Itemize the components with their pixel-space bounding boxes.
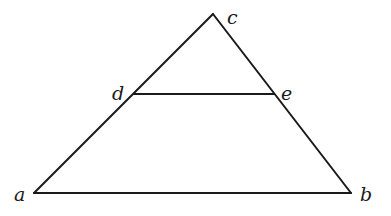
- vertex-label-a: a: [14, 183, 25, 205]
- point-label-d: d: [112, 82, 124, 104]
- point-label-e: e: [281, 82, 292, 104]
- triangle-diagram: a b c d e: [0, 0, 391, 216]
- vertex-label-c: c: [227, 6, 238, 28]
- vertex-label-b: b: [360, 183, 372, 205]
